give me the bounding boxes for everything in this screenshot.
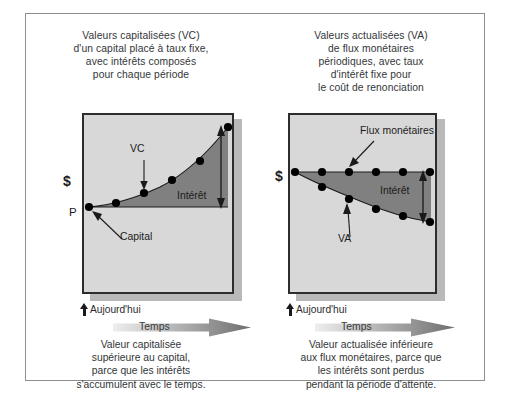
left-time-arrow-svg (113, 318, 251, 338)
left-data-point (140, 189, 148, 197)
left-caption-line-1: Valeur capitalisée (25, 338, 257, 351)
left-today-label: Aujourd'hui (90, 304, 141, 315)
left-title-line-2: d'un capital placé à taux fixe, (25, 42, 257, 55)
left-interest-label: Intérêt (177, 190, 206, 201)
left-time-arrow-shape (113, 319, 251, 337)
right-cashflow-point (372, 168, 380, 176)
right-title-line-5: le coût de renonciation (257, 81, 485, 94)
left-chart-svg (84, 115, 234, 294)
left-data-point (224, 123, 232, 131)
right-chart-svg (290, 115, 437, 294)
left-capital-label: Capital (120, 231, 152, 242)
right-today-arrow-icon (286, 303, 294, 309)
right-cashflow-point (426, 168, 434, 176)
panel-present-value: Valeurs actualisées (VA) de flux monétai… (257, 13, 485, 381)
right-cashflow-point (399, 168, 407, 176)
right-time-label: Temps (341, 321, 372, 332)
right-pv-point (318, 183, 326, 191)
left-caption-line-4: s'accumulent avec le temps. (25, 378, 257, 391)
left-caption-line-2: supérieure au capital, (25, 351, 257, 364)
left-vc-arrow-head (140, 181, 147, 190)
left-time-label: Temps (139, 321, 170, 332)
right-caption-line-1: Valeur actualisée inférieure (257, 338, 485, 351)
future-value-chart: VC Capital Intérêt (82, 113, 250, 305)
left-panel-caption: Valeur capitalisée supérieure au capital… (25, 338, 257, 391)
right-time-arrow: Temps (315, 318, 455, 338)
present-value-chart: Flux monétaires VA Intérêt (288, 113, 453, 305)
left-y-axis-label: $ (63, 173, 71, 189)
right-pv-point (372, 205, 380, 213)
right-pv-point (426, 218, 434, 226)
right-cashflow-point (318, 168, 326, 176)
left-data-point (112, 199, 120, 207)
left-start-point-label: P (69, 206, 77, 218)
figure-root: Valeurs capitalisées (VC) d'un capital p… (0, 0, 512, 404)
right-pv-label: VA (338, 233, 351, 244)
left-caption-line-3: parce que les intérêts (25, 364, 257, 377)
left-title-line-1: Valeurs capitalisées (VC) (25, 29, 257, 42)
right-pv-arrow-head (343, 203, 351, 214)
right-title-line-4: d'intérêt fixe pour (257, 68, 485, 81)
right-time-arrow-svg (315, 318, 455, 338)
left-vc-label: VC (130, 143, 144, 154)
panel-future-value: Valeurs capitalisées (VC) d'un capital p… (25, 13, 257, 381)
left-interest-area (89, 127, 228, 207)
right-pv-point (345, 195, 353, 203)
left-title-line-4: pour chaque période (25, 68, 257, 81)
right-cashflow-point (345, 168, 353, 176)
right-interest-area (295, 172, 431, 222)
right-caption-line-2: aux flux monétaires, parce que (257, 351, 485, 364)
left-data-point (85, 203, 93, 211)
right-panel-title: Valeurs actualisées (VA) de flux monétai… (257, 29, 485, 94)
right-title-line-3: périodiques, avec taux (257, 55, 485, 68)
right-chart-plot-area (288, 113, 437, 294)
right-title-line-1: Valeurs actualisées (VA) (257, 29, 485, 42)
left-data-point (196, 157, 204, 165)
right-panel-caption: Valeur actualisée inférieure aux flux mo… (257, 338, 485, 391)
right-cashflow-label: Flux monétaires (360, 125, 434, 136)
left-today-arrow-icon (80, 303, 88, 309)
right-caption-line-4: pendant la période d'attente. (257, 378, 485, 391)
left-data-point (168, 176, 176, 184)
left-capital-arrow-shaft (97, 215, 122, 239)
right-time-arrow-shape (315, 319, 455, 337)
right-cashflow-arrow-shaft (354, 141, 374, 162)
left-interest-arrow-head-up (217, 125, 225, 136)
left-chart-plot-area (82, 113, 234, 294)
right-today-label: Aujourd'hui (296, 304, 347, 315)
left-panel-title: Valeurs capitalisées (VC) d'un capital p… (25, 29, 257, 81)
right-pv-point (399, 212, 407, 220)
right-interest-label: Intérêt (380, 185, 409, 196)
right-caption-line-3: les intérêts sont perdus (257, 364, 485, 377)
left-capital-arrow-head (92, 211, 102, 221)
right-y-axis-label: $ (275, 168, 283, 184)
left-title-line-3: avec intérêts composés (25, 55, 257, 68)
left-time-arrow: Temps (113, 318, 251, 338)
right-title-line-2: de flux monétaires (257, 42, 485, 55)
right-cashflow-point (291, 168, 299, 176)
